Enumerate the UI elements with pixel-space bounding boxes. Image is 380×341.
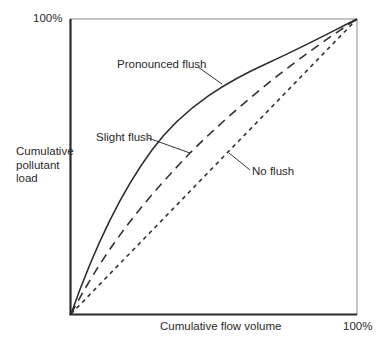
annotation-no-flush: No flush <box>252 165 294 179</box>
curve-no-flush <box>71 19 357 314</box>
y-axis-title-line-2: pollutant <box>16 159 74 173</box>
x-axis-title: Cumulative flow volume <box>160 320 281 334</box>
leader-no-flush <box>229 153 250 170</box>
y-axis-title: Cumulative pollutant load <box>16 145 74 186</box>
y-axis-max-label: 100% <box>33 12 62 26</box>
y-axis-title-line-1: Cumulative <box>16 145 74 159</box>
y-axis-title-line-3: load <box>16 172 74 186</box>
annotation-slight-flush: Slight flush <box>96 131 152 145</box>
annotation-pronounced-flush: Pronounced flush <box>117 58 207 72</box>
leader-slight <box>148 138 190 153</box>
x-axis-max-label: 100% <box>343 320 372 334</box>
